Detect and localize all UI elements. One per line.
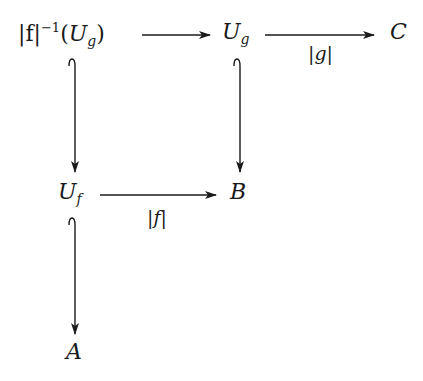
label-g-map: |g| <box>308 44 333 63</box>
node-a: A <box>66 341 82 363</box>
node-ug: Ug <box>222 21 250 46</box>
hook-arrow-preimage-to-uf <box>69 59 75 172</box>
node-preimage: |f|−1(Ug) <box>18 21 105 48</box>
node-b: B <box>230 181 246 203</box>
node-uf: Uf <box>58 181 82 206</box>
node-c: C <box>390 21 407 43</box>
exponent: −1 <box>41 20 60 35</box>
hook-arrow-uf-to-a <box>69 218 75 334</box>
abs-f: |f| <box>18 21 41 46</box>
hook-arrow-ug-to-b <box>234 59 240 172</box>
label-f-map: |f| <box>147 208 167 227</box>
